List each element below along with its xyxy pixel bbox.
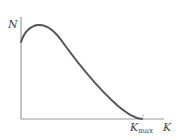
kmax-sub: max [138, 127, 153, 135]
chart: N Kmax K [0, 0, 180, 140]
kmax-label: Kmax [129, 121, 153, 135]
y-axis-label: N [7, 18, 18, 31]
x-axis-label: K [162, 121, 172, 134]
n-vs-k-curve [21, 25, 142, 119]
